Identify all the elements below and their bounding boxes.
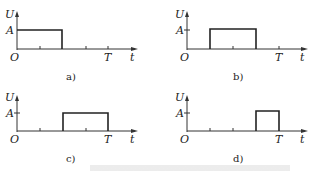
label-a: A — [5, 24, 14, 37]
figure-caption-faded — [40, 164, 290, 172]
u-axis-arrow-icon — [15, 11, 19, 17]
label-origin: O — [180, 51, 189, 64]
label-origin: O — [180, 133, 189, 146]
label-origin: O — [10, 51, 19, 64]
faded-caption-text — [40, 165, 290, 171]
pulse-diagram-figure: U A O T t a) U A O T t b) U A O T t — [0, 0, 316, 175]
label-a: A — [5, 107, 14, 120]
label-t: t — [300, 51, 305, 64]
label-period: T — [275, 133, 284, 146]
panel-b: U A O T t b) — [175, 8, 308, 82]
u-axis-arrow-icon — [15, 95, 19, 101]
panel-d: U A O T t d) — [175, 91, 308, 164]
u-axis-arrow-icon — [185, 95, 189, 101]
panel-a: U A O T t a) — [5, 8, 138, 82]
label-t: t — [130, 133, 135, 146]
label-u: U — [175, 91, 185, 104]
label-a: A — [175, 24, 184, 37]
label-period: T — [104, 133, 113, 146]
panel-c: U A O T t c) — [5, 91, 138, 164]
u-axis-arrow-icon — [185, 11, 189, 17]
label-u: U — [5, 8, 15, 21]
caption-a: a) — [66, 71, 76, 82]
caption-d: d) — [233, 153, 243, 164]
label-t: t — [130, 51, 135, 64]
pulse-signal — [256, 111, 279, 131]
label-u: U — [5, 91, 15, 104]
label-origin: O — [10, 133, 19, 146]
label-t: t — [300, 133, 305, 146]
label-u: U — [175, 8, 185, 21]
caption-c: c) — [66, 153, 76, 164]
label-period: T — [275, 51, 284, 64]
label-period: T — [104, 51, 113, 64]
caption-b: b) — [233, 71, 243, 82]
label-a: A — [175, 107, 184, 120]
